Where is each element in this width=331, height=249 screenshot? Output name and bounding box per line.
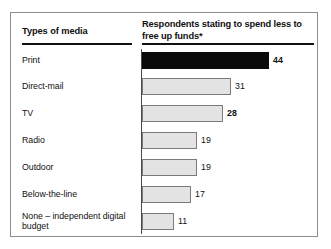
bar [142, 132, 197, 149]
header-rule-right [142, 43, 314, 45]
bar [142, 159, 197, 176]
bar-container: 19 [142, 127, 313, 153]
column-header-respondents: Respondents stating to spend less to fre… [142, 19, 314, 42]
bar-container: 17 [142, 181, 313, 207]
bar [142, 186, 191, 203]
header-rule-left [22, 43, 132, 45]
category-label: Print [22, 47, 138, 73]
chart-row: Radio 19 [11, 127, 317, 153]
bar [142, 78, 231, 95]
bar-value-label: 31 [235, 81, 245, 91]
bar-container: 44 [142, 47, 313, 73]
category-label: None – independent digital budget [22, 208, 138, 234]
bar-value-label: 28 [227, 108, 237, 118]
category-label: Direct-mail [22, 73, 138, 99]
chart-row: Below-the-line 17 [11, 181, 317, 207]
bar [142, 105, 223, 122]
category-label: Radio [22, 127, 138, 153]
bar-value-label: 44 [273, 55, 283, 65]
footnote-marker: * [199, 31, 202, 41]
bar-chart-plot: Print 44 Direct-mail 31 TV 28 Radio [11, 47, 317, 237]
chart-row: Direct-mail 31 [11, 73, 317, 99]
chart-figure: Types of media Respondents stating to sp… [10, 12, 318, 237]
bar-value-label: 19 [201, 162, 211, 172]
category-label: Below-the-line [22, 181, 138, 207]
chart-row: None – independent digital budget 11 [11, 208, 317, 234]
chart-header: Types of media Respondents stating to sp… [11, 13, 317, 47]
category-label: Outdoor [22, 154, 138, 180]
column-header-respondents-text: Respondents stating to spend less to fre… [142, 19, 302, 41]
chart-row: Outdoor 19 [11, 154, 317, 180]
bar-value-label: 17 [195, 189, 205, 199]
bar [142, 52, 269, 69]
bar-container: 11 [142, 208, 313, 234]
bar-container: 28 [142, 100, 313, 126]
chart-row: Print 44 [11, 47, 317, 73]
category-label: TV [22, 100, 138, 126]
bar [142, 213, 174, 230]
bar-value-label: 19 [201, 135, 211, 145]
column-header-types-of-media: Types of media [22, 26, 134, 37]
bar-container: 31 [142, 73, 313, 99]
chart-row: TV 28 [11, 100, 317, 126]
bar-container: 19 [142, 154, 313, 180]
bar-value-label: 11 [178, 216, 187, 226]
